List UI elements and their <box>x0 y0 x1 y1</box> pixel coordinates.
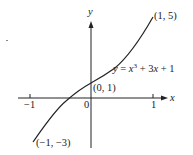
tick-label-neg1: −1 <box>24 99 35 110</box>
x-axis-label: x <box>169 92 175 103</box>
function-curve <box>33 17 153 142</box>
tick-label-1: 1 <box>151 99 156 110</box>
x-axis-arrow-icon <box>161 96 168 101</box>
stray-dot <box>6 40 8 41</box>
equation-label: y = x3 + 3x + 1 <box>112 62 175 74</box>
point-label-top: (1, 5) <box>154 10 177 22</box>
y-axis-arrow-icon <box>89 21 94 28</box>
function-graph: y x −1 0 1 (1, 5) (0, 1) (−1, −3) y = x3… <box>0 0 193 155</box>
x-axis <box>18 94 168 101</box>
point-label-mid: (0, 1) <box>93 82 116 94</box>
tick-label-0: 0 <box>84 99 89 110</box>
y-axis-label: y <box>87 6 93 17</box>
point-label-bottom: (−1, −3) <box>36 137 71 149</box>
